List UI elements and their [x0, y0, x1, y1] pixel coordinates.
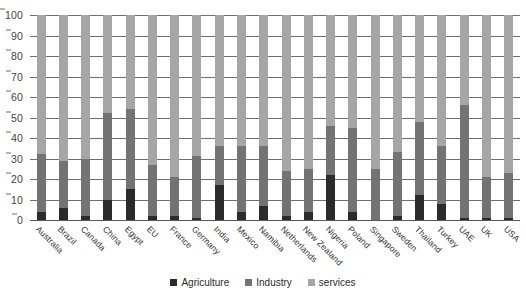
bar-segment-services [282, 15, 291, 171]
bar-segment-agriculture [103, 200, 112, 221]
bar-segment-industry [126, 109, 135, 189]
stacked-bar[interactable] [148, 15, 157, 220]
bar-segment-industry [282, 171, 291, 216]
y-axis-tick-label: 30 [11, 153, 30, 165]
x-axis-tick-label: EU [145, 224, 161, 240]
stacked-bar[interactable] [170, 15, 179, 220]
y-axis-tick-label: 70 [11, 71, 30, 83]
bar-segment-industry [148, 165, 157, 216]
bar-segment-agriculture [215, 185, 224, 220]
bar-segment-industry [326, 126, 335, 175]
x-label-slot: Canada [75, 222, 97, 277]
y-axis-tick-mark [0, 9, 5, 10]
stacked-bar[interactable] [192, 15, 201, 220]
bar-segment-industry [371, 169, 380, 220]
bar-segment-services [371, 15, 380, 169]
stacked-bar[interactable] [393, 15, 402, 220]
y-axis-tick-mark [6, 91, 11, 92]
x-label-slot: Australia [30, 222, 52, 277]
stacked-bar[interactable] [415, 15, 424, 220]
bar-slot [230, 15, 252, 220]
bar-segment-agriculture [415, 195, 424, 220]
stacked-bar[interactable] [348, 15, 357, 220]
y-axis-tick-mark [6, 193, 11, 194]
bar-segment-agriculture [237, 212, 246, 220]
bar-segment-agriculture [59, 208, 68, 220]
y-axis-tick-mark [6, 152, 11, 153]
legend-item[interactable]: Agriculture [170, 277, 229, 288]
bar-segment-industry [37, 154, 46, 211]
x-label-slot: China [97, 222, 119, 277]
stacked-bar[interactable] [371, 15, 380, 220]
bar-slot [475, 15, 497, 220]
x-axis-labels: AustraliaBrazilCanadaChinaEgyptEUFranceG… [30, 222, 520, 277]
bar-segment-services [393, 15, 402, 152]
y-axis-tick-mark [6, 70, 11, 71]
bar-segment-industry [237, 146, 246, 212]
y-axis-tick-label: 90 [11, 30, 30, 42]
y-axis-tick-label: 0 [17, 214, 30, 226]
bar-segment-industry [437, 146, 446, 203]
bar-segment-industry [415, 122, 424, 196]
bar-slot [208, 15, 230, 220]
x-label-slot: India [208, 222, 230, 277]
legend-item[interactable]: Industry [245, 277, 292, 288]
y-axis-tick-label: 80 [11, 50, 30, 62]
bar-slot [409, 15, 431, 220]
bar-slot [97, 15, 119, 220]
stacked-bar[interactable] [304, 15, 313, 220]
stacked-bar[interactable] [482, 15, 491, 220]
stacked-bar[interactable] [37, 15, 46, 220]
stacked-bar[interactable] [59, 15, 68, 220]
stacked-bar[interactable] [437, 15, 446, 220]
x-label-slot: Netherlands [275, 222, 297, 277]
legend-label: services [319, 277, 356, 288]
y-axis-tick-mark [6, 50, 11, 51]
bar-segment-agriculture [126, 189, 135, 220]
stacked-bar[interactable] [259, 15, 268, 220]
y-axis-tick-label: 100 [5, 9, 30, 21]
y-axis-tick-label: 40 [11, 132, 30, 144]
bar-segment-services [237, 15, 246, 146]
legend-item[interactable]: services [308, 277, 356, 288]
bar-slot [431, 15, 453, 220]
stacked-bar[interactable] [326, 15, 335, 220]
stacked-bar[interactable] [103, 15, 112, 220]
bar-segment-agriculture [37, 212, 46, 220]
stacked-bar[interactable] [126, 15, 135, 220]
x-label-slot: Mexico [230, 222, 252, 277]
bar-slot [342, 15, 364, 220]
y-axis-tick-mark [6, 132, 11, 133]
bar-segment-services [259, 15, 268, 146]
stacked-bar[interactable] [504, 15, 513, 220]
bar-slot [498, 15, 520, 220]
bar-segment-services [126, 15, 135, 109]
x-axis-tick-label: USA [502, 224, 522, 244]
bar-slot [275, 15, 297, 220]
bar-segment-services [103, 15, 112, 113]
bar-segment-industry [393, 152, 402, 216]
stacked-bar[interactable] [237, 15, 246, 220]
x-label-slot: Egypt [119, 222, 141, 277]
bar-segment-services [215, 15, 224, 146]
bar-segment-services [59, 15, 68, 161]
x-label-slot: New Zealand [297, 222, 319, 277]
y-axis-tick-label: 60 [11, 91, 30, 103]
bar-slot [319, 15, 341, 220]
x-label-slot: Thailand [409, 222, 431, 277]
bar-segment-industry [504, 173, 513, 218]
x-label-slot: Nigeria [319, 222, 341, 277]
stacked-bar[interactable] [282, 15, 291, 220]
bar-segment-services [415, 15, 424, 122]
bar-segment-agriculture [348, 212, 357, 220]
bar-segment-industry [460, 105, 469, 218]
bar-slot [119, 15, 141, 220]
bar-segment-industry [215, 146, 224, 185]
x-label-slot: EU [141, 222, 163, 277]
stacked-bar[interactable] [460, 15, 469, 220]
legend-swatch-icon [308, 279, 315, 286]
stacked-bar[interactable] [215, 15, 224, 220]
bar-segment-agriculture [304, 212, 313, 220]
stacked-bar[interactable] [81, 15, 90, 220]
y-axis-tick-mark [6, 111, 11, 112]
